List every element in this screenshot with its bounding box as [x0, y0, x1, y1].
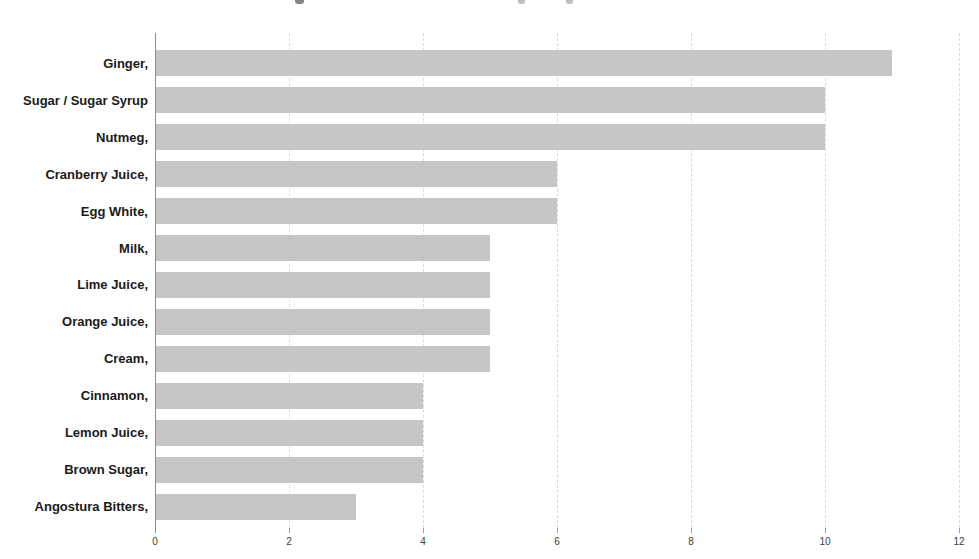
bar-row: [155, 267, 959, 304]
x-tick-label-6: 6: [554, 536, 560, 547]
bar-lemon-juice: [155, 420, 423, 446]
gridline-x-12: [959, 33, 960, 528]
tick-mark-x-8: [691, 528, 692, 533]
category-label: Lemon Juice,: [0, 414, 148, 451]
category-label: Lime Juice,: [0, 267, 148, 304]
x-tick-label-2: 2: [286, 536, 292, 547]
y-axis-line: [155, 33, 156, 533]
category-label: Egg White,: [0, 193, 148, 230]
bar-cinnamon: [155, 383, 423, 409]
tick-mark-x-6: [557, 528, 558, 533]
bar-milk: [155, 235, 490, 261]
bar-orange-juice: [155, 309, 490, 335]
x-tick-label-8: 8: [688, 536, 694, 547]
category-label: Cream,: [0, 340, 148, 377]
bar-row: [155, 488, 959, 525]
category-label: Orange Juice,: [0, 303, 148, 340]
bar-row: [155, 340, 959, 377]
bar-brown-sugar: [155, 457, 423, 483]
cropped-text-fragment: [295, 0, 304, 4]
tick-mark-x-2: [289, 528, 290, 533]
bar-chart-figure: Ginger,Sugar / Sugar SyrupNutmeg,Cranber…: [0, 0, 979, 559]
bar-angostura-bitters: [155, 494, 356, 520]
category-label: Milk,: [0, 230, 148, 267]
tick-mark-x-12: [959, 528, 960, 533]
bar-row: [155, 45, 959, 82]
category-label: Angostura Bitters,: [0, 488, 148, 525]
x-tick-label-10: 10: [819, 536, 830, 547]
bar-lime-juice: [155, 272, 490, 298]
category-label: Ginger,: [0, 45, 148, 82]
bar-row: [155, 119, 959, 156]
bar-cranberry-juice: [155, 161, 557, 187]
bar-row: [155, 82, 959, 119]
x-tick-label-4: 4: [420, 536, 426, 547]
bar-row: [155, 230, 959, 267]
x-tick-label-12: 12: [953, 536, 964, 547]
bar-row: [155, 414, 959, 451]
bar-row: [155, 156, 959, 193]
bar-nutmeg: [155, 124, 825, 150]
cropped-text-fragment: [518, 0, 525, 4]
category-label: Cinnamon,: [0, 377, 148, 414]
bar-egg-white: [155, 198, 557, 224]
category-label: Cranberry Juice,: [0, 156, 148, 193]
bar-ginger: [155, 50, 892, 76]
cropped-text-fragment: [566, 0, 573, 4]
bar-cream: [155, 346, 490, 372]
category-labels: Ginger,Sugar / Sugar SyrupNutmeg,Cranber…: [0, 45, 148, 525]
plot-area: 024681012: [155, 33, 959, 528]
bar-sugar-sugar-syrup: [155, 87, 825, 113]
category-label: Brown Sugar,: [0, 451, 148, 488]
tick-mark-x-4: [423, 528, 424, 533]
tick-mark-x-10: [825, 528, 826, 533]
bars: [155, 45, 959, 525]
category-label: Sugar / Sugar Syrup: [0, 82, 148, 119]
x-tick-label-0: 0: [152, 536, 158, 547]
bar-row: [155, 193, 959, 230]
category-label: Nutmeg,: [0, 119, 148, 156]
bar-row: [155, 377, 959, 414]
bar-row: [155, 303, 959, 340]
bar-row: [155, 451, 959, 488]
